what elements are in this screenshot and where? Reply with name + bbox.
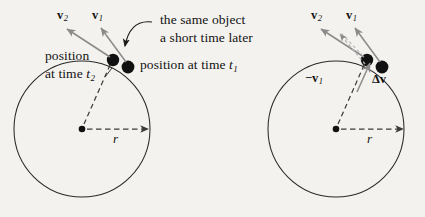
right-radius-to-object (338, 63, 365, 124)
right-circle-group (268, 28, 404, 197)
left-callout-arrow (125, 22, 152, 46)
right-label-minus-v1: −v1 (305, 71, 323, 87)
right-center-dot (333, 126, 340, 133)
right-label-delta-v: Δv (372, 72, 386, 88)
right-vector-v2 (321, 29, 364, 57)
right-label-v1: v1 (346, 8, 357, 24)
left-radius-label: r (113, 132, 118, 147)
right-vector-minus-v1-construction (340, 34, 365, 64)
left-object-dot-t1 (122, 61, 135, 74)
right-label-v2: v2 (311, 8, 322, 24)
callout-line-1: the same object (160, 12, 245, 27)
right-radius-label: r (367, 132, 372, 147)
left-label-v2: v2 (57, 8, 68, 24)
position-t2-line-1: position (45, 48, 89, 63)
position-t1-label: position at time t1 (140, 57, 238, 74)
figure-canvas: v2 v1 the same object a short time later… (0, 0, 425, 217)
position-t2-line-2: at time t2 (45, 66, 95, 83)
left-label-v1: v1 (92, 8, 103, 24)
callout-line-2: a short time later (160, 30, 253, 45)
left-center-dot (79, 126, 86, 133)
